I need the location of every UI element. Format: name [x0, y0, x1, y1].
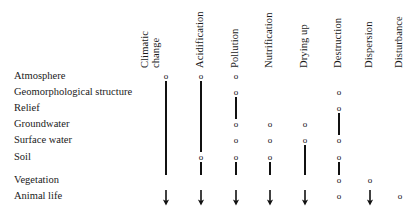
- connector-bar: [200, 81, 202, 152]
- down-arrow-icon: [195, 190, 207, 206]
- node-marker: o: [333, 174, 345, 186]
- node-marker: o: [299, 118, 311, 130]
- node-marker: o: [333, 102, 345, 114]
- node-marker: o: [333, 190, 345, 202]
- down-arrow-icon: [230, 190, 242, 206]
- marker-grid: ooooooooooooooooooooo: [0, 0, 416, 217]
- down-arrow-icon: [160, 190, 172, 206]
- connector-bar: [235, 97, 237, 119]
- node-marker: o: [333, 151, 345, 163]
- down-arrow-icon: [364, 190, 376, 206]
- node-marker: o: [195, 70, 207, 82]
- node-marker: o: [333, 134, 345, 146]
- node-marker: o: [230, 134, 242, 146]
- node-marker: o: [333, 86, 345, 98]
- connector-bar: [200, 162, 202, 175]
- node-marker: o: [264, 151, 276, 163]
- node-marker: o: [364, 174, 376, 186]
- node-marker: o: [230, 70, 242, 82]
- node-marker: o: [264, 118, 276, 130]
- node-marker: o: [230, 151, 242, 163]
- connector-bar: [235, 162, 237, 175]
- connector-bar: [165, 81, 167, 175]
- down-arrow-icon: [299, 190, 311, 206]
- down-arrow-icon: [264, 190, 276, 206]
- connector-bar: [269, 162, 271, 175]
- node-marker: o: [394, 190, 406, 202]
- node-marker: o: [230, 86, 242, 98]
- node-marker: o: [264, 134, 276, 146]
- connector-bar: [338, 113, 340, 135]
- node-marker: o: [160, 70, 172, 82]
- node-marker: o: [230, 118, 242, 130]
- impact-matrix-diagram: ClimaticchangeAcidificationPollutionNutr…: [0, 0, 416, 217]
- connector-bar: [304, 145, 306, 175]
- node-marker: o: [299, 134, 311, 146]
- node-marker: o: [195, 151, 207, 163]
